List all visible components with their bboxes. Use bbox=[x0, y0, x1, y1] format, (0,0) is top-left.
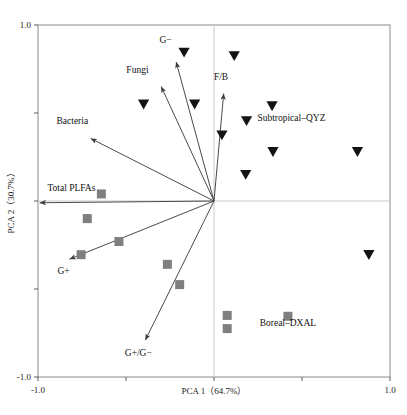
data-point-boreal-dxal bbox=[83, 214, 92, 223]
vector-label-fungi: Fungi bbox=[126, 65, 149, 75]
vector-arrow-g- bbox=[70, 201, 214, 259]
vector-label-g-g-: G+/G− bbox=[125, 348, 152, 358]
data-point-boreal-dxal bbox=[175, 280, 184, 289]
vector-arrow-f-b bbox=[214, 94, 224, 201]
data-point-subtropical-qyz bbox=[178, 48, 189, 58]
vector-label-f-b: F/B bbox=[214, 72, 228, 82]
x-tick-label-max: 1.0 bbox=[384, 385, 396, 395]
data-point-boreal-dxal bbox=[223, 311, 232, 320]
y-axis-title: PCA 2（30.7%） bbox=[6, 168, 16, 233]
data-point-subtropical-qyz bbox=[189, 100, 200, 110]
group-label-subtropical-qyz: Subtropical–QYZ bbox=[257, 113, 325, 123]
data-point-subtropical-qyz bbox=[138, 100, 149, 110]
data-point-subtropical-qyz bbox=[266, 101, 277, 111]
y-tick-label-min: -1.0 bbox=[17, 372, 32, 382]
data-point-subtropical-qyz bbox=[240, 170, 251, 180]
data-point-subtropical-qyz bbox=[216, 130, 227, 140]
group-label-boreal-dxal: Boreal–DXAL bbox=[260, 318, 317, 328]
data-point-subtropical-qyz bbox=[241, 116, 252, 126]
data-point-subtropical-qyz bbox=[267, 147, 278, 157]
data-point-boreal-dxal bbox=[114, 237, 123, 246]
data-point-boreal-dxal bbox=[77, 250, 86, 259]
data-point-boreal-dxal bbox=[97, 189, 106, 198]
vector-label-total-plfas: Total PLFAs bbox=[47, 183, 95, 193]
vector-arrow-g-g- bbox=[145, 201, 214, 340]
data-point-subtropical-qyz bbox=[363, 250, 374, 260]
data-point-subtropical-qyz bbox=[352, 147, 363, 157]
x-tick-label-min: -1.0 bbox=[31, 385, 46, 395]
vector-label-g-: G+ bbox=[57, 266, 69, 276]
x-axis-title: PCA 1（64.7%） bbox=[181, 386, 246, 396]
pca-biplot-svg: -1.01.01.0-1.0PCA 1（64.7%）PCA 2（30.7%）G−… bbox=[0, 0, 407, 415]
y-tick-label-max: 1.0 bbox=[20, 20, 32, 30]
data-point-boreal-dxal bbox=[223, 324, 232, 333]
vector-label-g-: G− bbox=[159, 35, 171, 45]
data-point-boreal-dxal bbox=[163, 260, 172, 269]
data-point-subtropical-qyz bbox=[229, 51, 240, 61]
vector-arrow-bacteria bbox=[91, 139, 214, 201]
vector-label-bacteria: Bacteria bbox=[56, 116, 88, 126]
pca-biplot-figure: -1.01.01.0-1.0PCA 1（64.7%）PCA 2（30.7%）G−… bbox=[0, 0, 407, 415]
